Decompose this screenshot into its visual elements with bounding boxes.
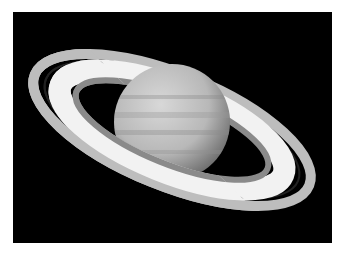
saturn-image — [0, 0, 345, 255]
